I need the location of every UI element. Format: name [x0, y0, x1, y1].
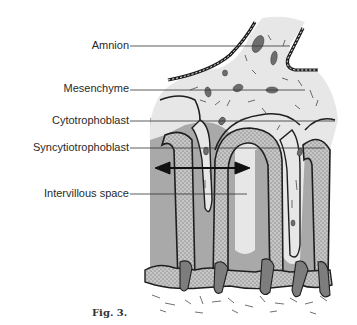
label-mesenchyme: Mesenchyme — [64, 82, 129, 94]
placental-villi-illustration — [0, 0, 357, 325]
figure-caption: Fig. 3. — [92, 307, 127, 318]
label-intervillous-space: Intervillous space — [44, 187, 129, 199]
label-amnion: Amnion — [92, 39, 129, 51]
label-cytotrophoblast: Cytotrophoblast — [52, 114, 129, 126]
label-syncytiotrophoblast: Syncytiotrophoblast — [33, 141, 129, 153]
decidua-fibers — [152, 295, 327, 314]
